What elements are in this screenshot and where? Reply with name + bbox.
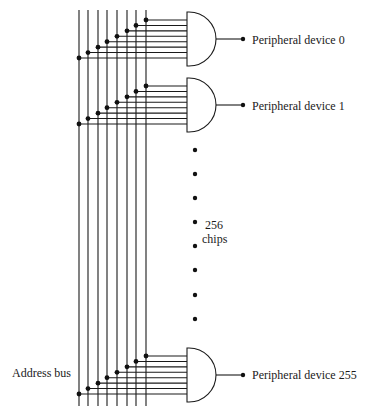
junction-dot xyxy=(96,45,101,50)
junction-dot xyxy=(125,28,130,33)
junction-dot xyxy=(86,386,91,391)
junction-dot xyxy=(125,94,130,99)
junction-dot xyxy=(144,84,149,89)
ellipsis-dot xyxy=(193,244,197,248)
junction-dot xyxy=(77,56,82,61)
address-bus-label: Address bus xyxy=(12,366,71,380)
chip-count-unit-label: chips xyxy=(202,232,228,246)
ellipsis-dot xyxy=(193,172,197,176)
junction-dot xyxy=(134,89,139,94)
junction-dot xyxy=(144,18,149,23)
decoder-chips xyxy=(77,12,246,402)
junction-dot xyxy=(86,116,91,121)
and-gate-icon xyxy=(187,348,216,402)
output-terminal-dot xyxy=(241,37,245,41)
junction-dot xyxy=(125,364,130,369)
peripheral-device-255-label: Peripheral device 255 xyxy=(252,368,357,382)
chip-255 xyxy=(77,348,246,402)
output-terminal-dot xyxy=(241,373,245,377)
junction-dot xyxy=(77,122,82,127)
junction-dot xyxy=(134,23,139,28)
junction-dot xyxy=(96,111,101,116)
chip-0 xyxy=(77,12,246,66)
junction-dot xyxy=(115,34,120,39)
junction-dot xyxy=(115,370,120,375)
junction-dot xyxy=(105,39,110,44)
chip-count-label: 256 xyxy=(205,218,223,232)
ellipsis-dot xyxy=(193,196,197,200)
and-gate-icon xyxy=(187,12,216,66)
ellipsis-dot xyxy=(193,220,197,224)
junction-dot xyxy=(77,392,82,397)
junction-dot xyxy=(115,100,120,105)
address-bus-lines xyxy=(79,10,146,406)
and-gate-icon xyxy=(187,78,216,132)
ellipsis-dot xyxy=(193,268,197,272)
junction-dot xyxy=(134,359,139,364)
ellipsis-dot xyxy=(193,317,197,321)
chip-1 xyxy=(77,78,246,132)
junction-dot xyxy=(86,50,91,55)
junction-dot xyxy=(105,105,110,110)
peripheral-device-0-label: Peripheral device 0 xyxy=(252,33,345,47)
ellipsis-dot xyxy=(193,293,197,297)
junction-dot xyxy=(105,375,110,380)
junction-dot xyxy=(144,354,149,359)
peripheral-device-1-label: Peripheral device 1 xyxy=(252,99,345,113)
junction-dot xyxy=(96,381,101,386)
address-decoder-diagram: Address bus 256 chips Peripheral device … xyxy=(0,0,367,418)
output-terminal-dot xyxy=(241,103,245,107)
ellipsis-dot xyxy=(193,148,197,152)
ellipsis-dots xyxy=(193,148,197,321)
